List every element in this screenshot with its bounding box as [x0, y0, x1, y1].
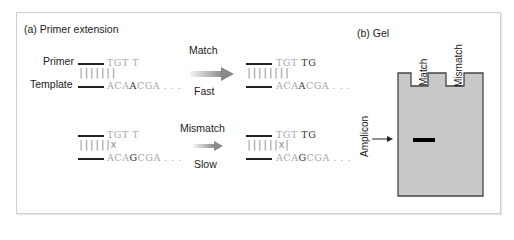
amplicon-label: Amplicon — [359, 116, 370, 157]
primer-strand — [78, 63, 104, 65]
template-strand — [78, 86, 104, 88]
match-arrow-icon — [190, 67, 235, 81]
mismatch-label: Mismatch — [180, 122, 225, 134]
match-label: Match — [189, 44, 218, 56]
template-seq-mismatch-after: ACAGCGA . . . — [276, 152, 351, 163]
primer-strand — [246, 63, 272, 65]
template-seq-mismatch-before: ACAGCGA . . . — [107, 152, 182, 163]
primer-strand — [78, 135, 104, 137]
template-label: Template — [30, 78, 73, 90]
lane-label-mismatch: Mismatch — [453, 44, 464, 87]
gel-slab — [397, 72, 487, 198]
base-pairs-match-before: ||||||| — [78, 67, 116, 78]
template-seq-match-after: ACAACGA . . . — [276, 80, 350, 91]
amplicon-band — [413, 138, 435, 142]
template-strand — [246, 86, 272, 88]
base-pairs-mismatch-before: ||||||x — [78, 139, 116, 150]
template-strand — [246, 158, 272, 160]
slow-label: Slow — [194, 158, 217, 170]
primer-strand — [246, 135, 272, 137]
template-strand — [78, 158, 104, 160]
base-pairs-match-after: |||||||| — [246, 67, 289, 78]
primer-label: Primer — [43, 55, 74, 67]
base-pairs-mismatch-after: ||||||x| — [246, 139, 289, 150]
template-seq-match-before: ACAACGA . . . — [107, 80, 181, 91]
panel-b-title: (b) Gel — [357, 27, 389, 39]
amplicon-arrow-icon — [372, 135, 394, 143]
panel-a-title: (a) Primer extension — [24, 23, 119, 35]
fast-label: Fast — [194, 85, 214, 97]
lane-label-match: Match — [418, 59, 429, 86]
mismatch-arrow-icon — [193, 141, 223, 151]
